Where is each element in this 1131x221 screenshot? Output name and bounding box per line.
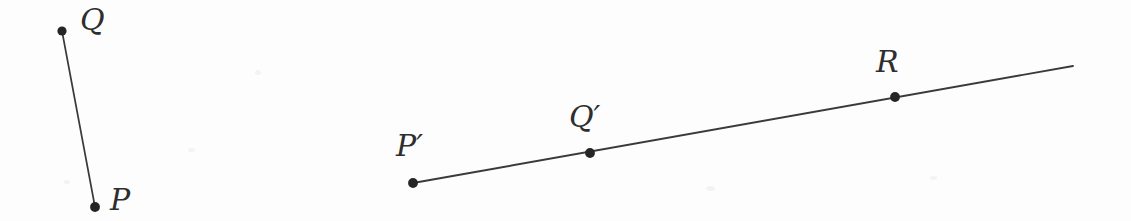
point-q-dot: [57, 26, 66, 35]
point-label-r: R: [876, 47, 899, 77]
point-label-q-prime: Q′: [569, 102, 600, 132]
line-pqr: [413, 66, 1073, 183]
point-label-p-prime: P′: [396, 131, 423, 161]
segment-pq: [62, 31, 95, 207]
point-label-p: P: [110, 185, 130, 215]
point-label-q: Q: [80, 5, 105, 35]
point-r-dot: [890, 92, 900, 102]
figure-canvas: [0, 0, 1131, 221]
point-q-prime-dot: [585, 148, 595, 158]
geometry-figure: Q P P′ Q′ R: [0, 0, 1131, 221]
point-p-dot: [90, 202, 100, 212]
point-p-prime-dot: [408, 178, 418, 188]
